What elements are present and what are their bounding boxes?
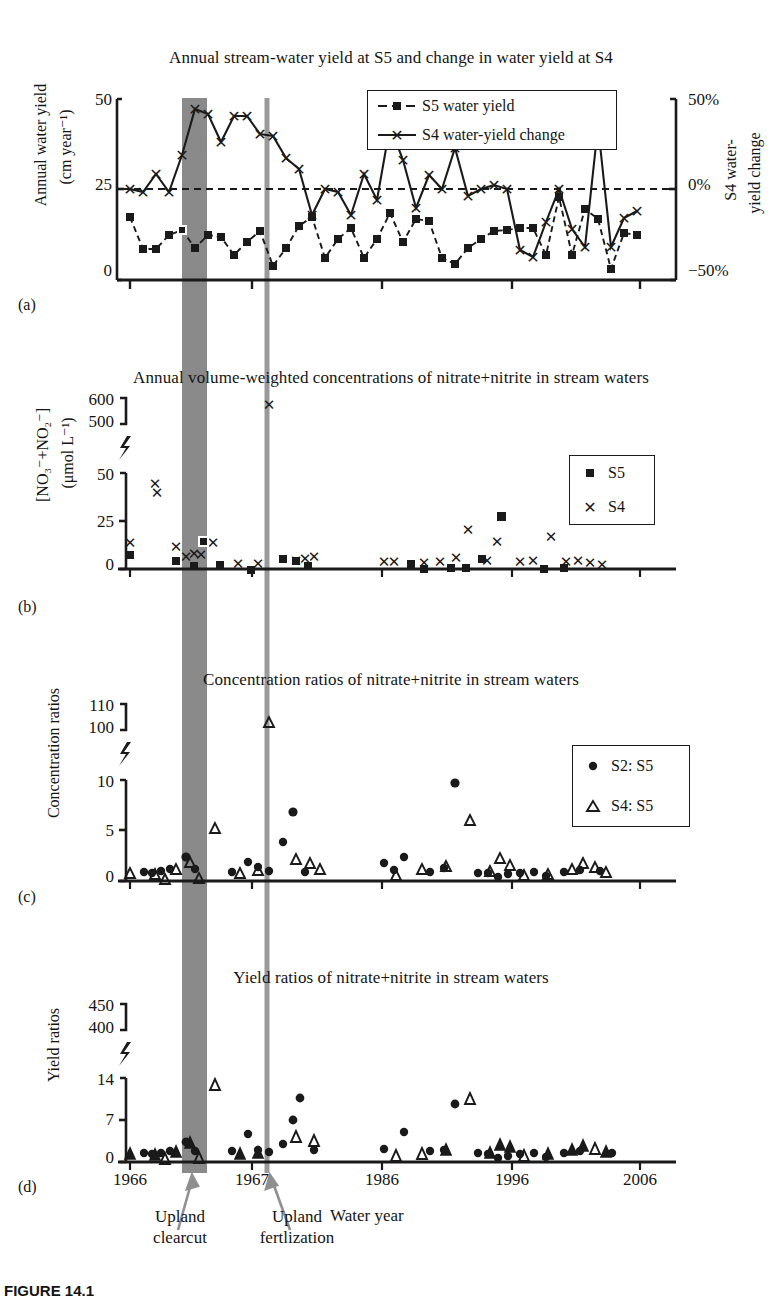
legend-marker-triangle-icon: [581, 797, 607, 815]
svg-text:✕: ✕: [390, 126, 403, 145]
annotation-upland-fertilization-line1: Upland: [222, 1206, 372, 1227]
svg-text:✕: ✕: [266, 127, 279, 146]
panel-b-series-s4-markers: ✕ ✕✕ ✕ ✕✕✕ ✕ ✕ ✕ ✕ ✕✕✕ ✕✕ ✕✕ ✕✕ ✕✕ ✕✕ ✕ …: [124, 396, 609, 574]
svg-text:✕: ✕: [151, 484, 164, 502]
svg-text:✕: ✕: [214, 133, 227, 152]
panel-b-axis-break-icon: [119, 436, 131, 460]
panel-c-series-s2s5-markers: [140, 778, 604, 881]
svg-text:✕: ✕: [526, 248, 539, 267]
svg-text:✕: ✕: [331, 183, 344, 202]
legend-marker-square-icon: [578, 464, 604, 482]
svg-text:✕: ✕: [545, 528, 558, 546]
svg-text:✕: ✕: [527, 552, 540, 570]
svg-text:✕: ✕: [539, 213, 552, 232]
svg-text:✕: ✕: [388, 553, 401, 571]
panel-b-axis-upper: [120, 398, 126, 424]
svg-text:✕: ✕: [162, 183, 175, 202]
panel-d: Yield ratios of nitrate+nitrite in strea…: [0, 920, 782, 1296]
panel-b-legend-label-s5: S5: [604, 464, 625, 482]
panel-a-legend-label-s4: S4 water-yield change: [418, 126, 565, 144]
xtick-1986: 1986: [342, 1170, 422, 1190]
panel-b-legend-label-s4: S4: [604, 498, 625, 516]
svg-text:✕: ✕: [500, 180, 513, 199]
panel-b-legend-item-s4: ✕ S4: [570, 490, 654, 524]
svg-text:✕: ✕: [434, 553, 447, 571]
svg-text:✕: ✕: [578, 238, 591, 257]
panel-a: Annual stream-water yield at S5 and chan…: [0, 0, 782, 340]
panel-b-legend-item-s5: S5: [570, 456, 654, 490]
svg-text:✕: ✕: [318, 180, 331, 199]
svg-text:✕: ✕: [253, 125, 266, 144]
svg-text:✕: ✕: [491, 533, 504, 551]
xtick-1967: 1967: [212, 1170, 292, 1190]
legend-marker-cross-icon: ✕: [578, 498, 604, 516]
panel-c-legend-item-s2s5: S2: S5: [573, 746, 689, 786]
panel-c: Concentration ratios of nitrate+nitrite …: [0, 630, 782, 920]
xtick-2006: 2006: [600, 1170, 680, 1190]
svg-text:✕: ✕: [136, 183, 149, 202]
legend-marker-circle-icon: [581, 757, 607, 775]
panel-a-legend: S5 water yield ✕ S4 water-yield change: [367, 90, 617, 150]
svg-text:✕: ✕: [344, 206, 357, 225]
svg-text:✕: ✕: [474, 180, 487, 199]
panel-d-axis-upper: [120, 1004, 126, 1030]
panel-d-axis-break-icon: [119, 1042, 131, 1066]
svg-text:✕: ✕: [195, 546, 208, 564]
figure-caption: FIGURE 14.1: [4, 1282, 94, 1296]
xtick-1996: 1996: [472, 1170, 552, 1190]
panel-c-series-s4s5-markers: [125, 717, 611, 884]
svg-text:✕: ✕: [435, 180, 448, 199]
legend-marker-square-dashed-icon: [376, 97, 418, 115]
svg-text:✕: ✕: [263, 396, 276, 414]
panel-c-legend-label-s4s5: S4: S5: [607, 797, 653, 815]
svg-text:✕: ✕: [292, 160, 305, 179]
svg-text:✕: ✕: [617, 209, 630, 228]
panel-b: Annual volume-weighted concentrations of…: [0, 340, 782, 630]
svg-text:✕: ✕: [513, 241, 526, 260]
panel-d-series-s2s5-markers: [140, 1094, 616, 1163]
svg-text:✕: ✕: [279, 149, 292, 168]
svg-text:✕: ✕: [188, 100, 201, 119]
svg-text:✕: ✕: [149, 165, 162, 184]
panel-a-legend-item-s5: S5 water yield: [368, 91, 616, 120]
panel-c-legend-item-s4s5: S4: S5: [573, 786, 689, 826]
annotation-upland-fertilization: Upland fertlization: [222, 1206, 372, 1249]
svg-text:✕: ✕: [370, 191, 383, 210]
panel-c-axis-break-icon: [119, 742, 131, 766]
xtick-1966: 1966: [90, 1170, 170, 1190]
svg-text:✕: ✕: [123, 180, 136, 199]
panel-c-legend: S2: S5 S4: S5: [572, 745, 690, 827]
panel-b-legend: S5 ✕ S4: [569, 455, 655, 525]
svg-text:✕: ✕: [201, 105, 214, 124]
svg-text:✕: ✕: [514, 553, 527, 571]
annotation-upland-fertilization-line2: fertlization: [222, 1227, 372, 1248]
svg-text:✕: ✕: [227, 107, 240, 126]
figure-14-1: Annual stream-water yield at S5 and chan…: [0, 0, 782, 1296]
svg-text:✕: ✕: [487, 176, 500, 195]
svg-text:✕: ✕: [357, 165, 370, 184]
legend-marker-cross-solid-icon: ✕: [376, 126, 418, 144]
svg-text:✕: ✕: [630, 202, 643, 221]
panel-c-legend-label-s2s5: S2: S5: [607, 757, 653, 775]
svg-text:✕: ✕: [461, 187, 474, 206]
panel-a-plot: ✕✕✕✕ ✕✕✕✕ ✕✕✕✕ ✕✕✕✕ ✕✕✕✕ ✕✕✕✕ ✕✕✕✕ ✕✕✕✕ …: [0, 0, 782, 340]
svg-text:✕: ✕: [232, 555, 245, 573]
svg-text:✕: ✕: [596, 556, 609, 574]
svg-text:✕: ✕: [396, 151, 409, 170]
panel-a-legend-item-s4: ✕ S4 water-yield change: [368, 120, 616, 149]
svg-text:✕: ✕: [583, 498, 596, 517]
svg-text:✕: ✕: [240, 107, 253, 126]
svg-text:✕: ✕: [422, 166, 435, 185]
panel-a-legend-label-s5: S5 water yield: [418, 97, 514, 115]
panel-b-plot: ✕ ✕✕ ✕ ✕✕✕ ✕ ✕ ✕ ✕ ✕✕✕ ✕✕ ✕✕ ✕✕ ✕✕ ✕✕ ✕ …: [0, 340, 782, 630]
svg-text:✕: ✕: [175, 146, 188, 165]
panel-c-axis-upper: [120, 704, 126, 730]
svg-text:✕: ✕: [462, 521, 475, 539]
svg-text:✕: ✕: [124, 534, 137, 552]
svg-text:✕: ✕: [584, 554, 597, 572]
svg-text:✕: ✕: [572, 552, 585, 570]
